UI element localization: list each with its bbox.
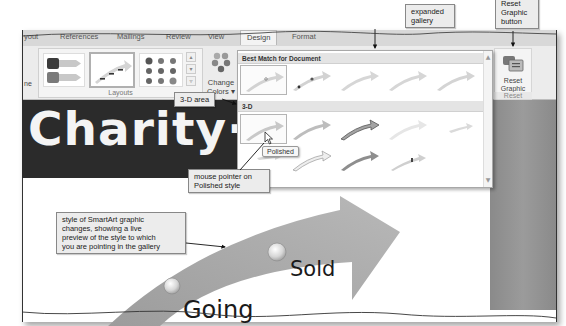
gallery-item-white-outline[interactable] bbox=[288, 65, 335, 95]
style-arrow-icon bbox=[435, 117, 477, 141]
callout-3d-area: 3-D area bbox=[174, 92, 215, 107]
gallery-item-simple-fill[interactable] bbox=[240, 65, 287, 95]
callout-text: button bbox=[501, 17, 533, 26]
bead-going bbox=[164, 278, 180, 294]
screenshot-page: yout References Mailings Review View Des… bbox=[0, 0, 566, 326]
callout-reset-graphic-button: Reset Graphic button bbox=[495, 0, 539, 29]
gallery-scroll-down[interactable]: ▼ bbox=[484, 176, 492, 183]
gallery-item-intense-effect[interactable] bbox=[432, 65, 479, 95]
style-arrow-icon bbox=[244, 69, 286, 93]
smartart-text-going[interactable]: Going bbox=[183, 296, 253, 324]
gallery-item-3d-sunset[interactable] bbox=[336, 145, 383, 175]
gallery-scrollbar[interactable]: ▲ ▼ bbox=[483, 51, 492, 187]
gallery-item-3d-brick[interactable] bbox=[432, 114, 479, 144]
callout-text: you are pointing in the gallery bbox=[62, 242, 180, 251]
callout-text: expanded bbox=[411, 7, 449, 16]
callout-text: Graphic bbox=[501, 8, 533, 17]
style-arrow-icon bbox=[291, 117, 333, 141]
smartart-text-sold[interactable]: Sold bbox=[290, 257, 335, 281]
style-arrow-icon bbox=[387, 68, 429, 92]
style-arrow-icon bbox=[339, 117, 381, 141]
expanded-style-gallery: Best Match for Document 3-D ▲ ▼ bbox=[237, 50, 493, 188]
gallery-section-3d: 3-D bbox=[238, 101, 484, 112]
callout-text: Reset bbox=[501, 0, 533, 8]
gallery-item-subtle-effect[interactable] bbox=[336, 65, 383, 95]
style-arrow-icon bbox=[339, 148, 381, 172]
gallery-item-3d-powder[interactable] bbox=[384, 114, 431, 144]
callout-live-preview: style of SmartArt graphic changes, showi… bbox=[56, 212, 186, 254]
bead-sold bbox=[268, 243, 286, 261]
callout-text: gallery bbox=[411, 16, 449, 25]
style-arrow-icon bbox=[291, 68, 333, 92]
polished-tooltip: Polished bbox=[262, 146, 299, 157]
gallery-item-3d-cartoon[interactable] bbox=[336, 114, 383, 144]
style-arrow-icon bbox=[387, 148, 429, 172]
gallery-item-3d-birds-eye[interactable] bbox=[384, 145, 431, 175]
callout-text: changes, showing a live bbox=[62, 224, 180, 233]
gallery-scroll-up[interactable]: ▲ bbox=[484, 53, 492, 60]
callout-text: mouse pointer on bbox=[194, 172, 264, 181]
callout-expanded-gallery: expanded gallery bbox=[405, 4, 455, 28]
gallery-item-moderate-effect[interactable] bbox=[384, 65, 431, 95]
style-arrow-icon bbox=[435, 68, 477, 92]
style-arrow-icon bbox=[387, 117, 429, 141]
style-arrow-icon bbox=[339, 68, 381, 92]
callout-mouse-pointer: mouse pointer on Polished style bbox=[188, 169, 270, 193]
callout-text: style of SmartArt graphic bbox=[62, 215, 180, 224]
mouse-pointer-icon bbox=[264, 131, 274, 145]
callout-text: preview of the style to which bbox=[62, 233, 180, 242]
gallery-section-best-match: Best Match for Document bbox=[238, 53, 484, 64]
callout-text: Polished style bbox=[194, 181, 264, 190]
gallery-item-3d-inset[interactable] bbox=[288, 114, 335, 144]
